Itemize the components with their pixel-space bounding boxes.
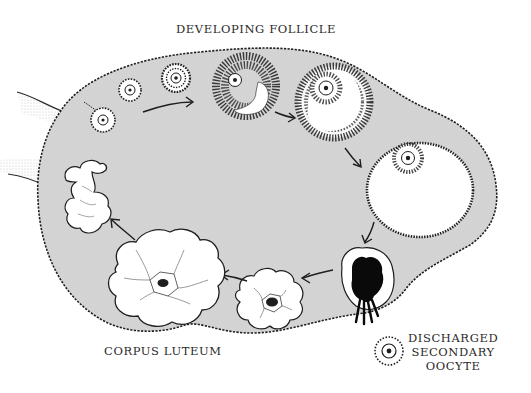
discharged-oocyte-label: DISCHARGED SECONDARY OOCYTE (408, 331, 498, 373)
graafian-follicle (367, 143, 473, 237)
primary-follicle (119, 79, 141, 101)
discharged-oocyte-label-line1: DISCHARGED (408, 331, 498, 345)
discharged-oocyte-label-line3: OOCYTE (408, 359, 498, 373)
growing-follicle (162, 64, 190, 92)
early-corpus-luteum (236, 269, 303, 329)
developing-follicle-label: DEVELOPING FOLLICLE (176, 22, 336, 36)
corpus-luteum-label: CORPUS LUTEUM (104, 344, 222, 358)
antral-follicle (298, 66, 370, 138)
discharged-oocyte (375, 337, 403, 365)
secondary-follicle (215, 55, 277, 117)
discharged-oocyte-label-line2: SECONDARY (408, 345, 498, 359)
